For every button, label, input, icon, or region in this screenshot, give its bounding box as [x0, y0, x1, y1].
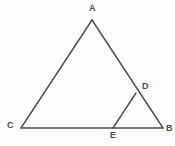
segment-AB: [92, 20, 163, 128]
vertex-label-e: E: [110, 131, 116, 140]
geometry-figure: A B C D E: [0, 0, 175, 146]
vertex-label-a: A: [89, 4, 96, 13]
vertex-label-d: D: [142, 82, 149, 91]
vertex-label-c: C: [7, 121, 14, 130]
vertex-label-b: B: [166, 124, 173, 133]
geometry-canvas: [0, 0, 175, 146]
segment-ED: [113, 93, 136, 128]
segment-AC: [21, 20, 92, 128]
